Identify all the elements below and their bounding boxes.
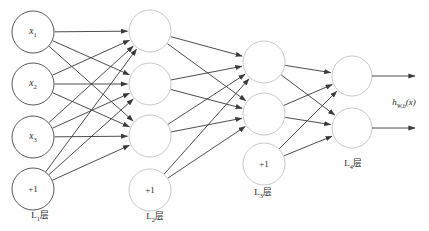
edge-a22-to-a31	[171, 66, 242, 80]
edge-a23-to-a32	[171, 118, 242, 132]
edge-bias-2-to-a32	[168, 126, 245, 178]
edge-group	[46, 31, 337, 180]
neuron-bias-2[interactable]	[129, 169, 171, 211]
network-diagram-canvas: x1x2x3+1L1层+1L2层+1L3层L4层hW,b(x)	[0, 0, 429, 231]
edge-a31-to-out1	[285, 65, 331, 72]
edge-bias-1-to-a21	[46, 49, 137, 172]
network-svg	[0, 0, 429, 231]
edge-x1-to-a21	[54, 31, 127, 32]
edge-x2-to-a23	[53, 93, 130, 127]
edge-bias-3-to-out1	[279, 91, 337, 149]
neuron-x3[interactable]	[12, 116, 54, 158]
edge-bias-3-to-out2	[284, 136, 332, 156]
edge-a23-to-a31	[168, 74, 245, 124]
edge-a21-to-a32	[167, 44, 245, 101]
edge-a21-to-a31	[171, 37, 243, 56]
neuron-a22[interactable]	[129, 63, 171, 105]
neuron-bias-3[interactable]	[243, 143, 285, 185]
neuron-out2[interactable]	[332, 108, 372, 148]
edge-a32-to-out2	[285, 117, 331, 124]
neuron-bias-1[interactable]	[12, 168, 54, 210]
neuron-a32[interactable]	[243, 93, 285, 135]
neuron-a31[interactable]	[243, 41, 285, 83]
edge-bias-1-to-a23	[53, 145, 130, 180]
neuron-a23[interactable]	[129, 115, 171, 157]
neuron-a21[interactable]	[129, 10, 171, 52]
neuron-x1[interactable]	[12, 11, 54, 53]
neuron-out1[interactable]	[332, 56, 372, 96]
neuron-x2[interactable]	[12, 63, 54, 105]
output-arrow-group	[372, 76, 415, 128]
edge-a32-to-out1	[284, 85, 333, 106]
edge-bias-2-to-a31	[164, 79, 249, 174]
